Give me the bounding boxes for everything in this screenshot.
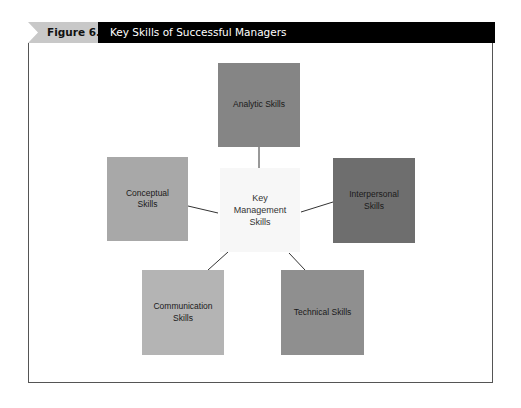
node-label: Interpersonal Skills: [339, 189, 409, 212]
node-label: Communication Skills: [148, 301, 218, 324]
node-analytic-skills: Analytic Skills: [218, 63, 300, 147]
connector-conceptual: [188, 206, 218, 213]
node-label: Technical Skills: [294, 307, 352, 318]
node-label: Conceptual Skills: [117, 188, 178, 211]
center-label-line-1: Key: [234, 192, 287, 204]
node-communication-skills: Communication Skills: [142, 270, 224, 355]
node-label: Analytic Skills: [233, 99, 285, 110]
center-label-line-2: Management: [234, 204, 287, 216]
connector-communication: [208, 252, 228, 270]
connector-technical: [289, 253, 305, 270]
node-technical-skills: Technical Skills: [281, 270, 364, 355]
node-conceptual-skills: Conceptual Skills: [107, 157, 188, 241]
node-interpersonal-skills: Interpersonal Skills: [333, 158, 415, 243]
center-node-key-management-skills: Key Management Skills: [220, 168, 300, 252]
center-label-line-3: Skills: [234, 216, 287, 228]
connector-interpersonal: [301, 202, 333, 212]
